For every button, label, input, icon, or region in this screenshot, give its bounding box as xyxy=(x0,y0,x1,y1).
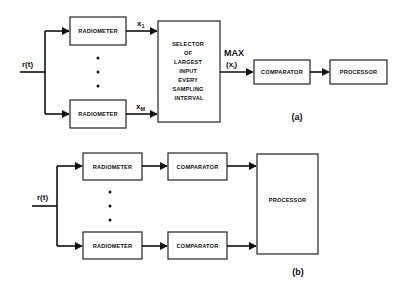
svg-text:RADIOMETER: RADIOMETER xyxy=(93,243,133,249)
ellipsis-dot xyxy=(109,205,112,208)
caption-b: (b) xyxy=(292,267,304,277)
svg-text:PROCESSOR: PROCESSOR xyxy=(269,197,307,203)
signal-xM-label: xM xyxy=(136,102,145,112)
radiometer-bottom-b: RADIOMETER xyxy=(83,232,142,259)
svg-text:COMPARATOR: COMPARATOR xyxy=(261,69,303,75)
svg-text:COMPARATOR: COMPARATOR xyxy=(177,164,219,170)
radiometer-top-a: RADIOMETER xyxy=(70,17,126,45)
ellipsis-dot xyxy=(109,219,112,222)
ellipsis-dot xyxy=(97,85,100,88)
caption-a: (a) xyxy=(292,112,303,122)
radiometer-top-b: RADIOMETER xyxy=(83,153,142,180)
diagram-b: r(t) RADIOMETER RADIOMETER COMPARATOR CO… xyxy=(32,153,318,277)
max-arg-label: (xi) xyxy=(226,60,238,70)
processor-a: PROCESSOR xyxy=(330,60,387,84)
radiometer-bottom-a: RADIOMETER xyxy=(70,100,126,128)
max-label: MAX xyxy=(224,48,244,58)
selector-block: SELECTOR OF LARGEST INPUT EVERY SAMPLING… xyxy=(158,21,220,122)
signal-x1-label: x1 xyxy=(137,19,145,29)
svg-text:RADIOMETER: RADIOMETER xyxy=(78,28,118,34)
diagram-a: r(t) RADIOMETER RADIOMETER x1 xM SELECTO… xyxy=(20,17,387,128)
comparator-bottom-b: COMPARATOR xyxy=(168,232,227,259)
input-label-a: r(t) xyxy=(22,60,33,69)
ellipsis-dot xyxy=(97,71,100,74)
input-label-b: r(t) xyxy=(37,193,48,202)
block-diagram-canvas: r(t) RADIOMETER RADIOMETER x1 xM SELECTO… xyxy=(0,0,404,291)
comparator-top-b: COMPARATOR xyxy=(168,153,227,180)
processor-b: PROCESSOR xyxy=(257,154,318,254)
ellipsis-dot xyxy=(97,57,100,60)
svg-text:COMPARATOR: COMPARATOR xyxy=(177,243,219,249)
ellipsis-dot xyxy=(109,191,112,194)
svg-text:PROCESSOR: PROCESSOR xyxy=(340,69,378,75)
svg-text:RADIOMETER: RADIOMETER xyxy=(78,111,118,117)
comparator-a: COMPARATOR xyxy=(254,60,310,84)
svg-text:RADIOMETER: RADIOMETER xyxy=(93,164,133,170)
